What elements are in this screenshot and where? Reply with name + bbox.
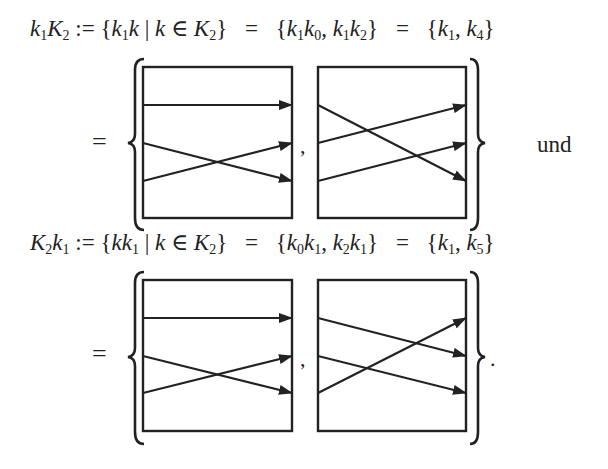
right-brace-icon: [470, 272, 485, 444]
comma-separator: ,: [300, 133, 306, 158]
right-brace-icon: [470, 59, 485, 230]
left-brace-icon: [128, 59, 144, 230]
comma-separator: ,: [300, 346, 306, 371]
diagram-k1-set2: [143, 280, 292, 431]
final-period: .: [490, 346, 496, 371]
diagram-k1-set1: [143, 67, 292, 218]
permutation-diagrams: , , .: [0, 0, 608, 469]
left-brace-icon: [128, 272, 144, 444]
